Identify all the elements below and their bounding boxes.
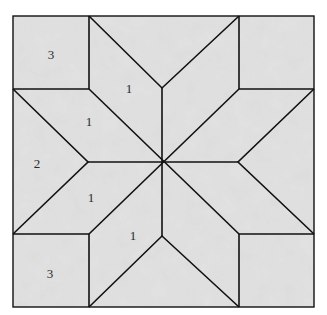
label-diamond-top-left-upper: 1 bbox=[126, 81, 133, 96]
label-corner-bottom-left: 3 bbox=[47, 266, 54, 281]
quilt-block-svg: 3 1 1 2 1 1 3 bbox=[0, 0, 327, 315]
label-diamond-bottom-left-lower: 1 bbox=[130, 228, 137, 243]
label-diamond-top-left-lower: 1 bbox=[86, 114, 93, 129]
label-side-left: 2 bbox=[34, 156, 41, 171]
quilt-diagram: 3 1 1 2 1 1 3 bbox=[0, 0, 327, 315]
label-diamond-bottom-left-upper: 1 bbox=[88, 190, 95, 205]
label-corner-top-left: 3 bbox=[48, 47, 55, 62]
